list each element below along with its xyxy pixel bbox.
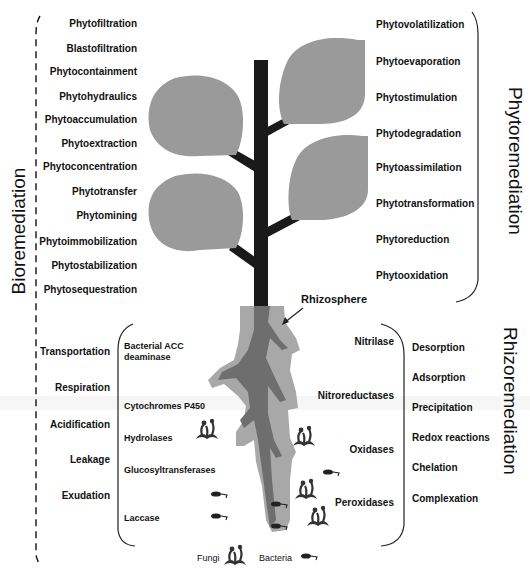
enzyme: Bacterial ACC deaminase bbox=[124, 341, 204, 363]
legend-fungi-label: Fungi bbox=[197, 552, 220, 564]
enzyme: Peroxidases bbox=[335, 497, 394, 509]
enzyme: Nitrilase bbox=[355, 336, 394, 348]
phytoremediation-title: Phytoremediation bbox=[504, 86, 526, 236]
phyto-process: Phytoextraction bbox=[61, 138, 137, 150]
root-process: Leakage bbox=[70, 454, 110, 466]
rhizo-process: Desorption bbox=[412, 342, 465, 354]
root-process: Transportation bbox=[40, 346, 110, 358]
rhizo-process: Redox reactions bbox=[412, 432, 490, 444]
enzyme: Laccase bbox=[124, 512, 160, 524]
phyto-process: Phytoreduction bbox=[376, 234, 449, 246]
phyto-process: Phytofiltration bbox=[69, 18, 137, 30]
bioremediation-bracket bbox=[36, 16, 40, 565]
rhizosphere-arrow bbox=[282, 308, 303, 325]
phyto-process: Phytodegradation bbox=[376, 128, 461, 140]
phyto-process: Phytosequestration bbox=[44, 284, 137, 296]
phyto-process: Phytoaccumulation bbox=[45, 114, 137, 126]
phyto-process: Phytoimmobilization bbox=[39, 236, 137, 248]
phyto-process: Phytomining bbox=[76, 210, 137, 222]
rhizosphere-label: Rhizosphere bbox=[301, 293, 367, 305]
enzyme: Glucosyltransferases bbox=[124, 464, 216, 476]
phyto-process: Blastofiltration bbox=[66, 43, 137, 55]
phyto-process: Phytocontainment bbox=[50, 66, 137, 78]
phyto-process: Phytotransformation bbox=[376, 198, 474, 210]
rhizoremediation-title: Rhizoremediation bbox=[499, 326, 521, 476]
phyto-process: Phytotransfer bbox=[72, 186, 137, 198]
enzyme: Nitroreductases bbox=[318, 390, 394, 402]
rhizo-process: Adsorption bbox=[412, 372, 465, 384]
phyto-process: Phytoassimilation bbox=[376, 162, 462, 174]
bioremediation-title: Bioremediation bbox=[8, 166, 30, 296]
legend-bacteria-label: Bacteria bbox=[259, 552, 292, 564]
root-process: Respiration bbox=[55, 382, 110, 394]
phyto-process: Phytohydraulics bbox=[59, 91, 137, 103]
phyto-process: Phytooxidation bbox=[376, 270, 448, 282]
phyto-process: Phytostabilization bbox=[51, 260, 137, 272]
root-system bbox=[208, 306, 300, 532]
rhizo-process: Precipitation bbox=[412, 402, 473, 414]
enzyme: Cytochromes P450 bbox=[124, 400, 205, 412]
enzyme: Hydrolases bbox=[124, 432, 173, 444]
phyto-process: Phytostimulation bbox=[376, 92, 457, 104]
enzyme: Oxidases bbox=[350, 444, 394, 456]
phyto-process: Phytoevaporation bbox=[376, 56, 460, 68]
root-process: Acidification bbox=[50, 419, 110, 431]
root-process: Exudation bbox=[62, 490, 110, 502]
rhizo-right-bracket bbox=[381, 324, 404, 546]
rhizo-process: Complexation bbox=[412, 493, 478, 505]
rhizo-process: Chelation bbox=[412, 462, 458, 474]
phyto-process: Phytovolatilization bbox=[376, 19, 464, 31]
phyto-process: Phytoconcentration bbox=[43, 161, 137, 173]
